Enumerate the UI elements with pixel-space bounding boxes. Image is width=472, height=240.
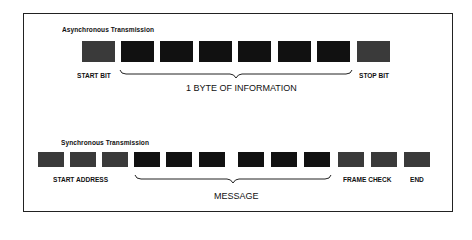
async-data-bit [121,41,154,62]
sync-end-label: END [410,175,424,184]
async-start-label: START BIT [77,71,111,80]
async-data-bit [199,41,232,62]
async-title: Asynchronous Transmission [62,25,154,34]
async-data-bit [160,41,193,62]
sync-frame-check-block [338,152,364,167]
sync-message-block [199,152,225,167]
async-caption: 1 BYTE OF INFORMATION [186,83,297,93]
sync-message-block [166,152,192,167]
async-data-bit [317,41,350,62]
sync-message-block [271,152,297,167]
sync-address-block [70,152,96,167]
sync-message-block [304,152,330,167]
sync-address-block [102,152,128,167]
async-stop-label: STOP BIT [359,71,389,80]
sync-message-block [238,152,264,167]
sync-start-address-label: START ADDRESS [53,175,108,184]
async-stop-bit [357,41,390,62]
sync-caption: MESSAGE [214,191,259,201]
async-byte-brace [118,68,354,80]
sync-end-block [404,152,430,167]
sync-frame-check-label: FRAME CHECK [343,175,391,184]
sync-message-block [134,152,160,167]
async-data-bit [278,41,311,62]
sync-address-block [38,152,64,167]
sync-frame-check-block [371,152,397,167]
async-start-bit [82,41,115,62]
sync-message-brace [133,173,333,185]
async-data-bit [238,41,271,62]
sync-title: Synchronous Transmission [61,138,149,147]
